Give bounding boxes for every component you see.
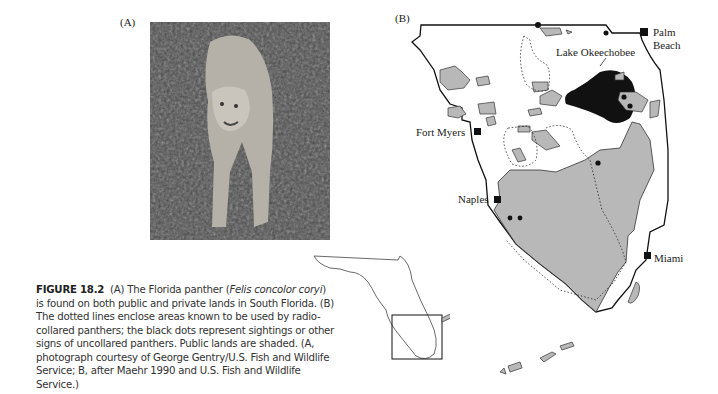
city-naples: Naples [458, 193, 489, 205]
panel-a-label: (A) [120, 16, 135, 28]
city-miami: Miami [654, 252, 683, 264]
panther-photo [150, 22, 330, 240]
svg-text:Beach: Beach [653, 39, 681, 51]
zoom-arrow [442, 272, 450, 322]
city-fort-myers: Fort Myers [416, 126, 465, 138]
panel-b-label: (B) [395, 12, 410, 25]
figure-caption: FIGURE 18.2 (A) The Florida panther (Fel… [36, 283, 336, 391]
lake-label: Lake Okeechobee [556, 46, 635, 58]
figure-number: FIGURE 18.2 [36, 284, 104, 295]
species-name: Felis concolor coryi [229, 284, 322, 295]
city-palm-beach: Palm [653, 26, 676, 38]
